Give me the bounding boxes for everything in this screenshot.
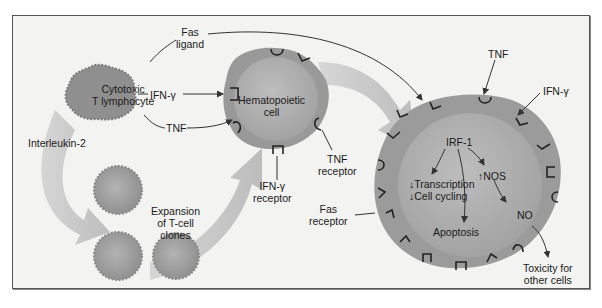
interleukin-2-label: Interleukin-2 (28, 137, 86, 149)
diagram-graphics (0, 0, 602, 308)
cytotoxic-line2: T lymphocyte (92, 95, 154, 107)
ifn-gamma-receptor-label: IFN-γ receptor (253, 180, 292, 204)
nos-text: NOS (483, 170, 506, 182)
transcription-label: ↓Transcription (409, 178, 475, 190)
ifn-receptor-line2: receptor (253, 192, 292, 204)
fas-ligand-label: Fas ligand (176, 26, 204, 50)
cytotoxic-line1: Cytotoxic (92, 83, 154, 95)
apoptosis-label: Apoptosis (433, 226, 479, 238)
fas-receptor-line2: receptor (309, 215, 348, 227)
cell-cycling-label: ↓Cell cycling (409, 190, 467, 202)
fas-ligand-line1: Fas (176, 26, 204, 38)
hematopoietic-line2: cell (238, 106, 305, 118)
tnf-top-label: TNF (488, 48, 508, 60)
expansion-label: Expansion of T-cell clones (151, 205, 200, 241)
hematopoietic-cell-label: Hematopoietic cell (238, 94, 305, 118)
no-label: NO (517, 209, 533, 221)
expansion-line1: Expansion (151, 205, 200, 217)
expansion-line2: of T-cell (151, 217, 200, 229)
cytotoxic-t-lymphocyte-label: Cytotoxic T lymphocyte (92, 83, 154, 107)
irf-1-label: IRF-1 (446, 136, 472, 148)
ifn-gamma-right-label: IFN-γ (543, 85, 569, 97)
hematopoietic-line1: Hematopoietic (238, 94, 305, 106)
ifn-gamma-left-label: IFN-γ (150, 89, 176, 101)
ifn-receptor-line1: IFN-γ (253, 180, 292, 192)
tnf-receptor-line1: TNF (318, 153, 357, 165)
transcription-text: Transcription (414, 178, 474, 190)
tnf-receptor-label: TNF receptor (318, 153, 357, 177)
toxicity-line1: Toxicity for (523, 262, 573, 274)
nos-label: ↑NOS (478, 170, 506, 182)
tnf-receptor-line2: receptor (318, 165, 357, 177)
tnf-left-label: TNF (166, 122, 186, 134)
toxicity-label: Toxicity for other cells (523, 262, 573, 286)
expansion-line3: clones (151, 229, 200, 241)
fas-ligand-line2: ligand (176, 38, 204, 50)
fas-receptor-label: Fas receptor (309, 203, 348, 227)
toxicity-line2: other cells (523, 274, 573, 286)
fas-receptor-line1: Fas (309, 203, 348, 215)
cell-cycling-text: Cell cycling (414, 190, 467, 202)
